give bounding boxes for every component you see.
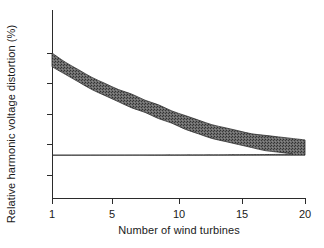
x-tick-label-1: 1 [37,208,67,220]
plot-area: 100 80 60 40 20 1 5 10 15 20 [52,10,306,199]
x-tick-label-5: 5 [97,208,127,220]
x-axis-label: Number of wind turbines [52,224,306,236]
chart-figure: Relative harmonic voltage distortion (%)… [0,0,324,248]
y-axis-label: Relative harmonic voltage distortion (%) [0,0,22,248]
distortion-band [52,10,306,199]
x-tick-label-15: 15 [227,208,257,220]
x-tick-label-10: 10 [164,208,194,220]
x-tick-label-20: 20 [290,208,320,220]
